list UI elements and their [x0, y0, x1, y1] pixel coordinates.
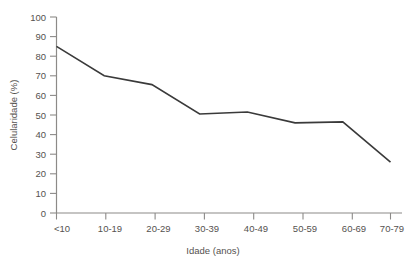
y-tick-label-20: 20 — [35, 168, 46, 179]
y-tick-label-60: 60 — [35, 90, 46, 101]
x-tick-label-3: 30-39 — [195, 223, 219, 234]
x-tick-label-6: 60-69 — [342, 223, 366, 234]
chart-container: 100 90 80 70 60 50 40 30 20 10 0 Celular… — [0, 0, 417, 269]
y-tick-label-80: 80 — [35, 51, 46, 62]
x-tick-label-7: 70-79 — [380, 223, 404, 234]
y-tick-label-90: 90 — [35, 31, 46, 42]
line-chart: 100 90 80 70 60 50 40 30 20 10 0 Celular… — [0, 0, 417, 269]
x-axis-title: Idade (anos) — [186, 245, 239, 256]
y-tick-label-40: 40 — [35, 129, 46, 140]
x-tick-label-1: 10-19 — [98, 223, 122, 234]
x-tick-label-4: 40-49 — [244, 223, 268, 234]
data-series-line — [57, 46, 391, 162]
x-tick-marks — [57, 213, 391, 220]
x-tick-label-2: 20-29 — [146, 223, 170, 234]
y-tick-marks — [50, 17, 57, 213]
y-axis-title: Celularidade (%) — [8, 80, 19, 151]
y-tick-label-0: 0 — [41, 208, 46, 219]
y-tick-label-10: 10 — [35, 188, 46, 199]
y-tick-label-70: 70 — [35, 70, 46, 81]
x-tick-label-0: <10 — [54, 223, 70, 234]
x-axis-group: <10 10-19 20-29 30-39 40-49 50-59 60-69 … — [54, 213, 404, 256]
y-tick-label-30: 30 — [35, 149, 46, 160]
y-tick-label-100: 100 — [30, 12, 46, 23]
y-axis-group: 100 90 80 70 60 50 40 30 20 10 0 Celular… — [8, 12, 57, 219]
y-tick-label-50: 50 — [35, 110, 46, 121]
x-tick-label-5: 50-59 — [293, 223, 317, 234]
